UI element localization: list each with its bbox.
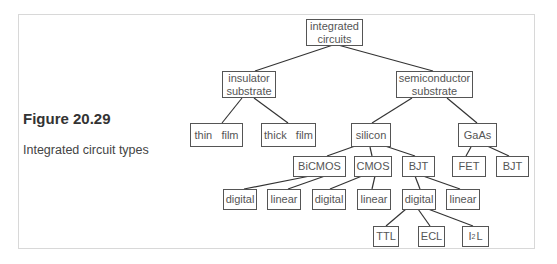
node-fet: FET: [452, 156, 486, 177]
node-bicmos-digital: digital: [223, 189, 257, 210]
node-thick-film: thick film: [261, 123, 316, 147]
node-ecl: ECL: [418, 226, 445, 247]
node-gaas: GaAs: [458, 123, 497, 147]
node-cmos: CMOS: [354, 156, 392, 177]
node-cmos-digital: digital: [312, 189, 346, 210]
node-insulator-substrate: insulator substrate: [222, 71, 276, 98]
node-silicon: silicon: [351, 123, 391, 147]
node-integrated-circuits: integrated circuits: [306, 19, 363, 46]
node-cmos-linear: linear: [357, 189, 391, 210]
node-thin-film: thin film: [190, 123, 243, 147]
node-ttl: TTL: [373, 226, 399, 247]
i2l-superscript: 2: [472, 230, 476, 243]
node-i2l: I2L: [462, 226, 489, 247]
i2l-tail: L: [476, 230, 482, 243]
node-bjt-linear: linear: [446, 189, 480, 210]
node-bjt-digital: digital: [402, 189, 436, 210]
node-semiconductor-substrate: semiconductor substrate: [396, 71, 473, 98]
node-bjt-gaas: BJT: [496, 156, 529, 177]
node-bicmos: BiCMOS: [293, 156, 346, 177]
node-bjt-silicon: BJT: [402, 156, 435, 177]
node-bicmos-linear: linear: [267, 189, 301, 210]
